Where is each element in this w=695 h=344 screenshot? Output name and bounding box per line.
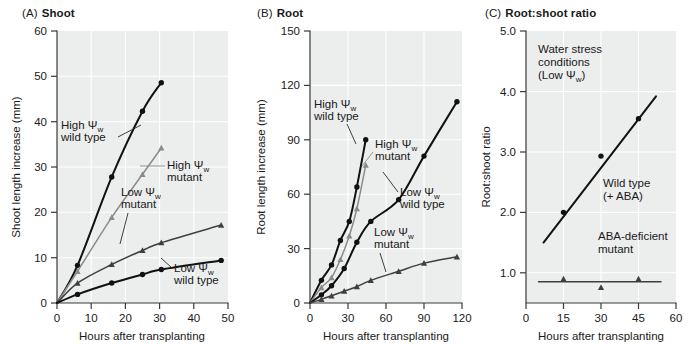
svg-text:40: 40 [187,312,200,324]
data-point-marker [354,184,359,189]
panel-a-yticks [51,31,57,303]
data-point-marker [354,240,359,245]
panel-b-xticks [310,303,462,309]
svg-text:30: 30 [342,312,355,324]
svg-text:60: 60 [287,188,300,200]
data-point-marker [329,262,334,267]
data-point-marker [421,153,426,158]
data-point-marker [329,283,334,288]
panel-a-x-axis-title: Hours after transplanting [79,330,205,342]
svg-text:40: 40 [34,116,47,128]
svg-text:150: 150 [281,25,300,37]
panel-c-xticks [526,303,676,309]
svg-text:30: 30 [34,161,47,173]
panel-b-y-axis-title: Root length increase (mm) [255,99,267,235]
svg-text:wild type: wild type [173,274,219,286]
svg-text:(+ ABA): (+ ABA) [603,190,643,202]
data-point-marker [159,80,164,85]
figure-root: (A)Shoot [0,0,695,344]
data-point-marker [368,219,373,224]
svg-text:50: 50 [34,70,47,82]
svg-text:60: 60 [34,25,47,37]
panel-c-ratio: (C)Root:shoot ratio [463,0,695,344]
data-point-marker [109,280,114,285]
panel-b-yticks [304,31,310,303]
svg-text:20: 20 [34,206,47,218]
svg-text:wild type: wild type [313,110,359,122]
svg-text:0: 0 [294,297,300,309]
data-point-marker [319,278,324,283]
panel-a-shoot: (A)Shoot [0,0,235,344]
data-point-marker [140,109,145,114]
panel-a-xtick-labels: 0 10 20 30 40 50 [54,312,235,324]
panel-b-plot: 0 30 60 90 120 150 0 30 60 90 120 [235,0,463,344]
svg-text:0: 0 [54,312,60,324]
svg-text:Wild type: Wild type [603,177,650,189]
panel-b-root: (B)Root [235,0,463,344]
svg-text:mutant: mutant [121,198,157,210]
panel-c-yticks [520,31,526,273]
svg-text:10: 10 [34,252,47,264]
svg-text:45: 45 [632,312,645,324]
svg-text:mutant: mutant [167,171,203,183]
svg-text:Water stress: Water stress [538,43,602,55]
data-point-marker [454,99,459,104]
svg-text:5.0: 5.0 [500,25,516,37]
svg-text:120: 120 [281,79,300,91]
svg-text:ABA-deficient: ABA-deficient [598,230,668,242]
svg-text:20: 20 [119,312,132,324]
svg-text:wild type: wild type [399,198,445,210]
data-point-marker [338,238,343,243]
svg-text:wild type: wild type [60,131,106,143]
panel-a-y-axis-title: Shoot length increase (mm) [10,96,22,237]
svg-text:mutant: mutant [374,238,410,250]
svg-text:conditions: conditions [538,56,590,68]
svg-text:30: 30 [287,243,300,255]
panel-c-plot: 1.0 2.0 3.0 4.0 5.0 0 15 30 45 60 Root:s… [463,0,695,344]
data-point-marker [636,116,641,121]
svg-text:mutant: mutant [375,150,411,162]
data-point-marker [218,258,223,263]
svg-text:90: 90 [287,134,300,146]
svg-text:50: 50 [222,312,235,324]
svg-text:90: 90 [418,312,431,324]
svg-text:4.0: 4.0 [500,86,516,98]
panel-a-ytick-labels: 0 10 20 30 40 50 60 [34,25,47,309]
panel-c-ytick-labels: 1.0 2.0 3.0 4.0 5.0 [500,25,516,279]
svg-text:mutant: mutant [598,243,634,255]
svg-text:60: 60 [670,312,683,324]
svg-text:60: 60 [380,312,393,324]
data-point-marker [561,210,566,215]
data-point-marker [140,272,145,277]
svg-text:2.0: 2.0 [500,206,516,218]
svg-text:15: 15 [557,312,570,324]
panel-b-ytick-labels: 0 30 60 90 120 150 [281,25,300,309]
panel-b-x-axis-title: Hours after transplanting [323,330,449,342]
data-point-marker [342,266,347,271]
svg-text:1.0: 1.0 [500,267,516,279]
data-point-marker [363,137,368,142]
data-point-marker [598,153,603,158]
data-point-marker [75,292,80,297]
svg-text:0: 0 [307,312,313,324]
svg-text:30: 30 [153,312,166,324]
panel-c-x-axis-title: Hours after transplanting [538,330,664,342]
svg-text:30: 30 [595,312,608,324]
svg-text:0: 0 [523,312,529,324]
data-point-marker [347,219,352,224]
panel-c-y-axis-title: Root:shoot ratio [480,126,492,207]
svg-text:0: 0 [41,297,47,309]
panel-a-plot: 0 10 20 30 40 50 60 0 10 20 30 [0,0,235,344]
panel-c-xtick-labels: 0 15 30 45 60 [523,312,683,324]
data-point-marker [159,267,164,272]
panel-a-xticks [57,303,228,309]
panel-b-xtick-labels: 0 30 60 90 120 [307,312,472,324]
svg-text:10: 10 [85,312,98,324]
data-point-marker [109,174,114,179]
svg-text:3.0: 3.0 [500,146,516,158]
